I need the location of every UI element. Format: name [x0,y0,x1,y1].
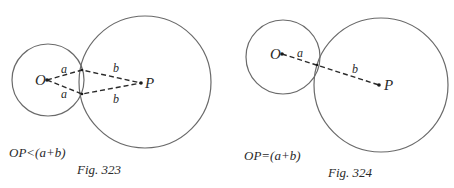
point-p-dot [377,83,381,87]
diagram-canvas: O P a a b b OP<(a+b) Fig. 323 O P a b OP… [0,0,454,188]
label-b-lower: b [113,92,119,106]
label-a-upper: a [61,62,67,76]
label-p: P [144,75,154,91]
label-b: b [352,62,358,76]
figure-323: O P a a b b OP<(a+b) Fig. 323 [9,16,211,177]
label-a: a [297,46,303,60]
tangent-point [316,64,319,67]
circle-o [246,20,320,94]
figure-caption: Fig. 324 [327,165,373,180]
condition-text: OP=(a+b) [244,148,301,163]
figure-324: O P a b OP=(a+b) Fig. 324 [244,18,448,180]
label-o: O [35,72,46,88]
figure-caption: Fig. 323 [76,162,122,177]
intersection-lower [81,93,84,96]
label-b-upper: b [113,61,119,75]
intersection-upper [81,69,84,72]
condition-text: OP<(a+b) [9,145,66,160]
label-o: O [270,46,281,62]
label-p: P [383,77,393,93]
point-p-dot [139,81,143,85]
label-a-lower: a [61,87,67,101]
circle-p [314,18,448,152]
